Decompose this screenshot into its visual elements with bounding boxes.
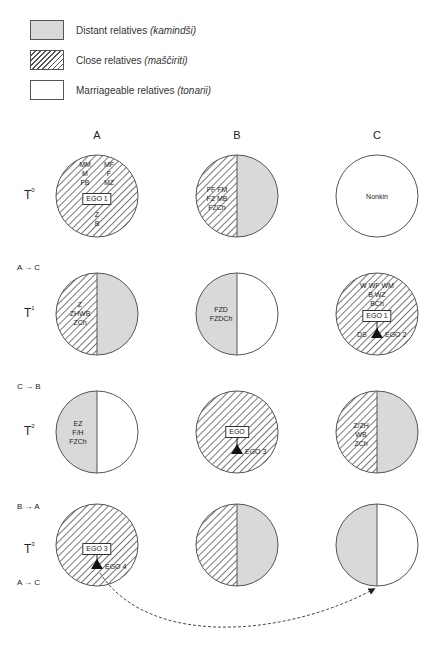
kin-label: MMMFB: [79, 160, 91, 187]
kin-label: ZZHWBZCh: [70, 300, 91, 327]
ego-box: EGO 1: [82, 193, 111, 205]
circle-b-t1: [196, 273, 278, 355]
kin-label: EZF/HFZCh: [69, 419, 87, 446]
child-label: DS: [357, 330, 367, 339]
kin-label: FZDFZDCh: [210, 305, 233, 323]
ego-box: EGO 3: [82, 543, 111, 555]
kin-label: MFFMZ: [104, 160, 114, 187]
ego-label: EGO 3: [245, 447, 266, 456]
kin-label: Nonkin: [366, 192, 388, 201]
circle-c-t2: [336, 391, 418, 473]
circle-b-t3: [196, 504, 278, 586]
kinship-diagram: Distant relatives (kamindši) Close relat…: [0, 0, 437, 657]
kin-label: W WF WMB WZBCh: [360, 281, 394, 308]
circles-layer: [0, 0, 437, 657]
kin-label: FF FMFZ MBFZCh: [207, 185, 228, 212]
kin-label: Z/ZHWBZCh: [353, 421, 369, 448]
ego-label: EGO 4: [105, 562, 126, 571]
circle-a-t1: [56, 273, 138, 355]
ego-box: EGO 1: [362, 310, 391, 322]
kin-label: ZB: [95, 210, 100, 228]
circle-c-t3: [336, 504, 418, 586]
ego-box: EGO: [225, 426, 249, 438]
ego-label: EGO 2: [385, 330, 406, 339]
